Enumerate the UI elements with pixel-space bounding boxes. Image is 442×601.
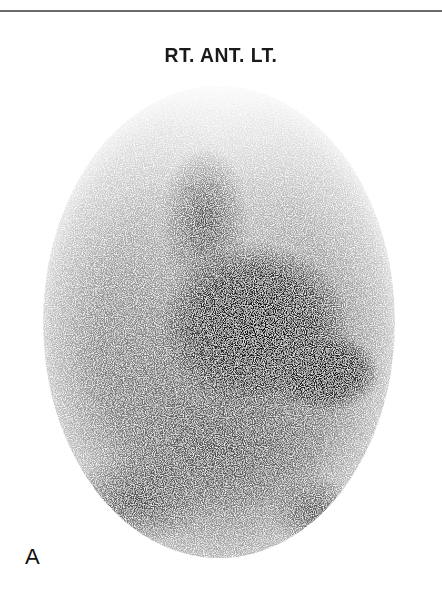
figure-title: RT. ANT. LT. <box>18 43 425 67</box>
panel-label: A <box>25 544 40 570</box>
top-rule <box>0 10 442 12</box>
scintigram-image <box>40 72 398 560</box>
